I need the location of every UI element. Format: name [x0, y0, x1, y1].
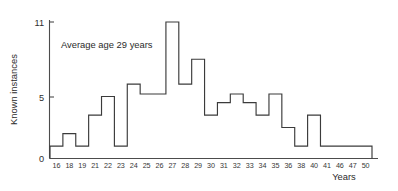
y-axis-ticks — [50, 22, 55, 97]
x-tick-label-31: 31 — [220, 161, 228, 170]
y-axis-title: Known instances — [8, 54, 19, 125]
x-tick-label-25: 25 — [143, 161, 151, 170]
x-tick-label-21: 21 — [91, 161, 99, 170]
x-tick-label-19: 19 — [78, 161, 86, 170]
histogram-chart: 11 5 0 Known instances Average age 29 ye… — [0, 0, 398, 191]
x-tick-label-22: 22 — [104, 161, 112, 170]
x-tick-label-38: 38 — [297, 161, 305, 170]
x-tick-label-28: 28 — [181, 161, 189, 170]
average-age-annotation: Average age 29 years — [61, 39, 153, 50]
x-tick-label-35: 35 — [272, 161, 280, 170]
y-tick-label-0: 0 — [39, 154, 44, 164]
x-tick-label-36: 36 — [284, 161, 292, 170]
x-tick-label-16: 16 — [53, 161, 61, 170]
y-tick-label-5: 5 — [39, 93, 44, 103]
chart-page: 11 5 0 Known instances Average age 29 ye… — [0, 0, 398, 191]
x-tick-label-18: 18 — [65, 161, 73, 170]
x-axis-tick-labels: 1618192122232425262728293031323334353638… — [53, 161, 370, 170]
x-tick-label-27: 27 — [168, 161, 176, 170]
x-tick-label-32: 32 — [233, 161, 241, 170]
x-tick-label-34: 34 — [259, 161, 267, 170]
x-tick-label-46: 46 — [336, 161, 344, 170]
x-tick-label-23: 23 — [117, 161, 125, 170]
x-tick-label-47: 47 — [349, 161, 357, 170]
x-tick-label-41: 41 — [323, 161, 331, 170]
x-axis-title: Years — [332, 171, 356, 182]
y-tick-label-11: 11 — [34, 18, 44, 28]
x-tick-label-24: 24 — [130, 161, 138, 170]
x-tick-label-33: 33 — [246, 161, 254, 170]
x-tick-label-50: 50 — [362, 161, 370, 170]
x-tick-label-40: 40 — [310, 161, 318, 170]
x-tick-label-26: 26 — [156, 161, 164, 170]
x-tick-label-29: 29 — [194, 161, 202, 170]
x-tick-label-30: 30 — [207, 161, 215, 170]
